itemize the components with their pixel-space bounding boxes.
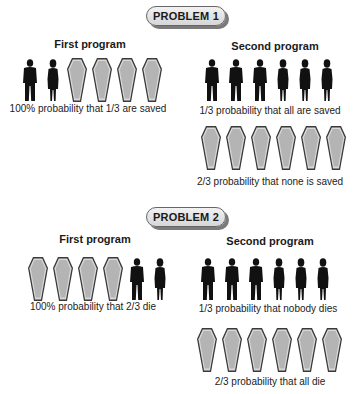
woman-silhouette-icon xyxy=(294,258,308,302)
problem-2-label: PROBLEM 2 xyxy=(146,207,226,227)
p1-second-program-heading: Second program xyxy=(200,40,350,52)
woman-silhouette-icon xyxy=(320,59,334,103)
p1-first-program-icons xyxy=(18,57,164,103)
woman-silhouette-icon xyxy=(276,59,290,103)
coffin-icon xyxy=(225,125,247,171)
man-silhouette-icon xyxy=(200,258,216,302)
man-silhouette-icon xyxy=(252,59,268,103)
coffin-icon xyxy=(116,57,138,103)
coffin-icon xyxy=(27,256,49,302)
p1-second-outcome-a-icons xyxy=(200,57,338,103)
p1-first-program-heading: First program xyxy=(20,38,160,50)
p2-first-program-caption: 100% probability that 2/3 die xyxy=(18,301,168,312)
p1-first-program-caption: 100% probability that 1/3 are saved xyxy=(2,103,174,114)
problem-1-label: PROBLEM 1 xyxy=(146,6,226,26)
woman-silhouette-icon xyxy=(316,258,330,302)
coffin-icon xyxy=(296,327,318,373)
man-silhouette-icon xyxy=(248,258,264,302)
coffin-icon xyxy=(246,327,268,373)
p1-second-outcome-a-caption: 1/3 probability that all are saved xyxy=(190,105,350,116)
coffin-icon xyxy=(77,256,99,302)
woman-silhouette-icon xyxy=(153,258,167,302)
coffin-icon xyxy=(200,125,222,171)
coffin-icon xyxy=(66,57,88,103)
coffin-icon xyxy=(321,327,343,373)
coffin-icon xyxy=(196,327,218,373)
woman-silhouette-icon xyxy=(298,59,312,103)
coffin-icon xyxy=(221,327,243,373)
coffin-icon xyxy=(141,57,163,103)
man-silhouette-icon xyxy=(224,258,240,302)
coffin-icon xyxy=(300,125,322,171)
man-silhouette-icon xyxy=(22,59,38,103)
man-silhouette-icon xyxy=(204,59,220,103)
coffin-icon xyxy=(91,57,113,103)
p2-second-outcome-a-icons xyxy=(196,256,334,302)
woman-silhouette-icon xyxy=(46,59,60,103)
woman-silhouette-icon xyxy=(272,258,286,302)
coffin-icon xyxy=(250,125,272,171)
coffin-icon xyxy=(325,125,347,171)
p2-first-program-icons xyxy=(25,256,171,302)
coffin-icon xyxy=(271,327,293,373)
p1-second-outcome-b-caption: 2/3 probability that none is saved xyxy=(190,176,350,187)
man-silhouette-icon xyxy=(228,59,244,103)
p2-first-program-heading: First program xyxy=(25,233,165,245)
p2-second-outcome-a-caption: 1/3 probability that nobody dies xyxy=(186,303,350,314)
p2-second-outcome-b-caption: 2/3 probability that all die xyxy=(190,376,350,387)
coffin-icon xyxy=(52,256,74,302)
p2-second-program-heading: Second program xyxy=(195,235,345,247)
man-silhouette-icon xyxy=(129,258,145,302)
p2-second-outcome-b-icons xyxy=(194,325,344,373)
coffin-icon xyxy=(102,256,124,302)
p1-second-outcome-b-icons xyxy=(198,125,348,171)
coffin-icon xyxy=(275,125,297,171)
